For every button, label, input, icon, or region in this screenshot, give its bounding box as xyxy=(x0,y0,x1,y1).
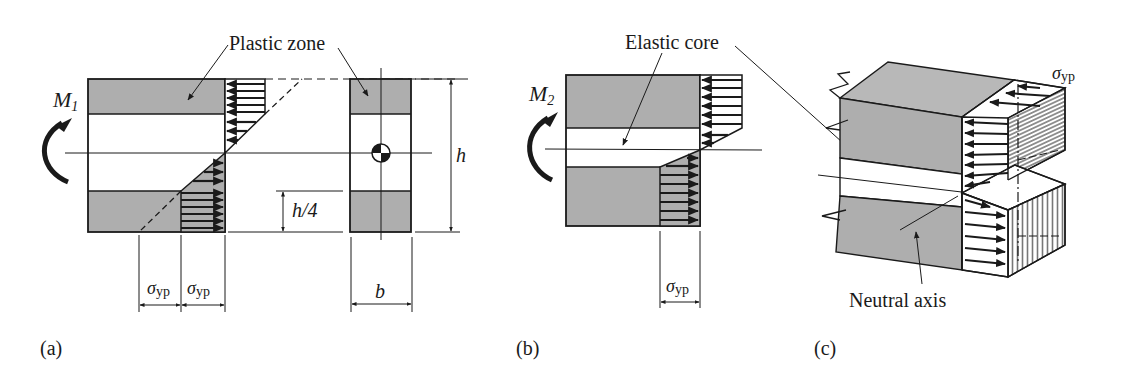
height-label-a: h xyxy=(456,144,466,166)
caption-b: (b) xyxy=(516,337,539,360)
stress-label-c: σyp xyxy=(1052,63,1075,84)
caption-c: (c) xyxy=(814,337,836,360)
stress-label-a-left: σyp xyxy=(147,278,170,299)
elastic-core-label: Elastic core xyxy=(625,31,719,53)
stress-label-a-right: σyp xyxy=(187,278,210,299)
moment-label-a: M1 xyxy=(52,87,78,114)
caption-a: (a) xyxy=(40,337,62,360)
moment-label-b: M2 xyxy=(528,81,554,108)
stress-width-dimensions-a xyxy=(139,235,225,312)
stress-label-b: σyp xyxy=(666,276,689,297)
plastic-depth-dimension-a xyxy=(228,191,343,232)
centroid-icon xyxy=(372,144,390,162)
elastic-extension-dashed xyxy=(265,79,302,114)
plastic-depth-label: h/4 xyxy=(292,199,318,221)
neutral-axis-line-b xyxy=(545,149,762,150)
moment-arrow-b xyxy=(530,112,558,180)
plastic-zone-label: Plastic zone xyxy=(229,32,325,54)
moment-arrow-a xyxy=(44,118,72,182)
panel-c xyxy=(818,62,1065,284)
panel-a xyxy=(44,45,470,312)
elastic-plastic-bending-figure: Plastic zone M1 h h/4 b σyp σyp (a) xyxy=(0,0,1122,375)
cross-section-a xyxy=(350,68,460,312)
width-label-a: b xyxy=(375,280,385,302)
neutral-axis-label: Neutral axis xyxy=(849,289,946,311)
